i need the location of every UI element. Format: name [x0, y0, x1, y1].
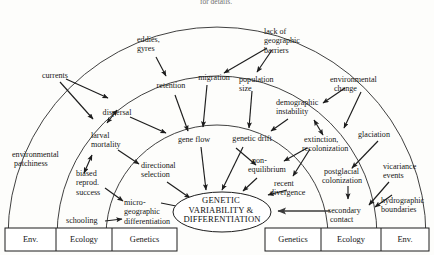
connector-env-change-extinction — [344, 92, 361, 128]
label-secondary-contact: secondary contact — [328, 206, 363, 224]
label-extinction-recolonization: extinction, recolonization — [302, 135, 348, 153]
label-retention: retention — [157, 81, 186, 90]
legend-right-cell-genetics: Genetics — [278, 235, 307, 244]
connector-non-equilibrium-center — [243, 178, 257, 191]
label-currents: currents — [42, 71, 68, 80]
label-larval-mortality: larval mortality — [91, 131, 122, 149]
legend-left-cell-ecology: Ecology — [70, 235, 99, 244]
legend-left-cell-env: Env. — [23, 235, 38, 244]
label-hydrographic-boundaries: hydrographic boundaries — [381, 196, 426, 214]
connector-population-size-genetic-drift — [249, 91, 252, 128]
connector-migration-gene-flow — [203, 85, 207, 127]
label-demographic-instability: demographic instability — [276, 98, 320, 116]
clipped-caption-top: for details. — [200, 0, 232, 6]
label-biased-reprod-success: biased reprod. success — [76, 169, 101, 197]
connector-larval-directional-selection — [118, 150, 139, 164]
legend-left: Env. Ecology Genetics — [5, 228, 177, 251]
legend-left-cell-genetics: Genetics — [130, 235, 159, 244]
connector-biased-reprod-microgeographic — [105, 188, 123, 201]
label-postglacial-colonization: postglacial colonization — [322, 167, 362, 185]
label-glaciation: glaciation — [358, 130, 390, 139]
central-node: GENETIC VARIABILITY & DIFFERENTIATION — [173, 192, 271, 232]
connector-demographic-instability-genetic-drift — [271, 119, 288, 131]
connector-currents-larval-mortality — [60, 82, 93, 119]
legend-right-cell-env: Env. — [397, 235, 412, 244]
label-micro-geographic-differentiation: micro- geographic differentiation — [124, 198, 170, 226]
connector-glaciation-postglacial — [352, 141, 378, 168]
label-gene-flow: gene flow — [178, 135, 210, 144]
diagram-root: currents eddies, gyres lack of geographi… — [0, 0, 434, 255]
connector-demographic-extinction-double — [314, 120, 323, 135]
label-genetic-drift: genetic drift — [232, 134, 272, 143]
label-schooling: schooling — [66, 216, 97, 225]
connector-eddies-retention — [156, 57, 166, 76]
connector-genetic-drift-center — [222, 147, 243, 190]
label-environmental-patchiness: environmental patchiness — [12, 150, 61, 168]
label-recent-divergence: recent divergence — [270, 179, 306, 197]
connector-barriers-migration — [224, 48, 267, 73]
connector-retention-gene-flow — [175, 95, 188, 131]
label-vicariance-events: vicariance events — [383, 162, 418, 180]
label-migration: migration — [198, 73, 229, 82]
label-population-size: population size — [239, 75, 276, 93]
label-dispersal: dispersal — [103, 108, 133, 117]
legend-right: Genetics Ecology Env. — [265, 228, 429, 251]
connector-gene-flow-center — [201, 147, 206, 190]
legend-right-cell-ecology: Ecology — [337, 235, 366, 244]
concentric-arc-diagram: currents eddies, gyres lack of geographi… — [0, 0, 434, 255]
label-eddies-gyres: eddies, gyres — [137, 35, 162, 53]
label-directional-selection: directional selection — [141, 161, 178, 179]
connector-dispersal-gene-flow — [130, 117, 166, 133]
label-environmental-change: environmental change — [330, 75, 379, 93]
label-non-equilibrium: non- equilibrium — [248, 156, 286, 174]
label-lack-geographic-barriers: lack of geographic barriers — [264, 27, 302, 55]
connector-directional-selection-center — [167, 182, 190, 198]
